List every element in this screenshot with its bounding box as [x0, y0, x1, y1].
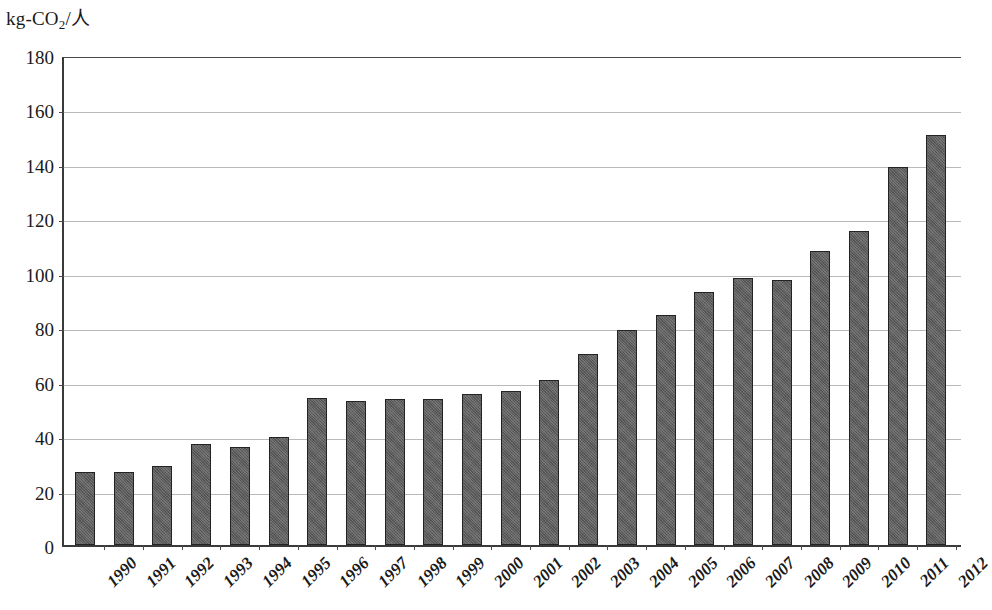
x-axis-tick-label: 1992 — [181, 554, 217, 590]
x-axis-tick-label: 2001 — [530, 554, 566, 590]
bar — [152, 466, 172, 545]
x-axis-tick-label: 2004 — [646, 554, 682, 590]
bar — [849, 231, 869, 545]
x-axis-tick-label: 1991 — [143, 554, 179, 590]
y-axis-tick-label: 180 — [4, 48, 54, 67]
x-axis-tick-mark — [453, 545, 454, 550]
x-axis-tick-mark — [607, 545, 608, 550]
bar — [888, 167, 908, 545]
bar — [772, 280, 792, 545]
bar — [423, 399, 443, 545]
bar — [307, 398, 327, 545]
bar — [75, 472, 95, 546]
y-axis-tick-label: 80 — [4, 320, 54, 339]
x-axis-tick-mark — [259, 545, 260, 550]
x-axis-tick-mark — [182, 545, 183, 550]
bar — [539, 380, 559, 545]
bar — [191, 444, 211, 545]
x-axis-tick-mark — [375, 545, 376, 550]
y-axis-tick-label: 100 — [4, 266, 54, 285]
x-axis-tick-label: 2011 — [916, 554, 951, 589]
bar — [694, 292, 714, 545]
x-axis-tick-label: 2006 — [723, 554, 759, 590]
bar — [462, 394, 482, 545]
y-axis-tick-mark — [59, 276, 64, 277]
plot-area — [62, 57, 961, 547]
x-axis-tick-label: 2000 — [491, 554, 527, 590]
x-axis-tick-mark — [143, 545, 144, 550]
y-axis-tick-label: 140 — [4, 157, 54, 176]
x-axis-tick-label: 2002 — [568, 554, 604, 590]
x-axis-tick-label: 1990 — [104, 554, 140, 590]
y-axis-tick-label: 40 — [4, 429, 54, 448]
x-axis-tick-label: 1998 — [414, 554, 450, 590]
x-axis-tick-mark — [414, 545, 415, 550]
x-axis-tick-mark — [801, 545, 802, 550]
x-axis-tick-mark — [878, 545, 879, 550]
gridline — [64, 112, 961, 113]
y-axis-tick-mark — [59, 221, 64, 222]
x-axis-tick-mark — [956, 545, 957, 550]
x-axis-tick-mark — [646, 545, 647, 550]
x-axis-tick-label: 1999 — [452, 554, 488, 590]
x-axis-tick-mark — [104, 545, 105, 550]
bar — [269, 437, 289, 545]
x-axis-tick-mark — [685, 545, 686, 550]
y-axis-unit-prefix: kg-CO — [6, 8, 59, 29]
bar — [617, 330, 637, 545]
bar — [656, 315, 676, 545]
bar — [810, 251, 830, 545]
x-axis-tick-label: 1994 — [259, 554, 295, 590]
x-axis-tick-mark — [491, 545, 492, 550]
y-axis-tick-label: 160 — [4, 102, 54, 121]
x-axis-tick-mark — [917, 545, 918, 550]
bar — [578, 354, 598, 545]
x-axis-tick-label: 2008 — [801, 554, 837, 590]
bar — [230, 447, 250, 545]
x-axis-tick-mark — [569, 545, 570, 550]
x-axis-tick-mark — [220, 545, 221, 550]
x-axis-tick-label: 1993 — [220, 554, 256, 590]
y-axis-tick-mark — [59, 330, 64, 331]
x-axis-tick-mark — [762, 545, 763, 550]
x-axis-tick-mark — [298, 545, 299, 550]
y-axis-tick-mark — [59, 385, 64, 386]
bar — [114, 472, 134, 546]
bar — [385, 399, 405, 545]
x-axis-tick-label: 1997 — [375, 554, 411, 590]
y-axis-tick-mark — [59, 112, 64, 113]
x-axis-tick-mark — [724, 545, 725, 550]
y-axis-unit-suffix: /人 — [65, 8, 90, 29]
x-axis-tick-label: 2007 — [762, 554, 798, 590]
y-axis-tick-label: 0 — [4, 538, 54, 557]
y-axis-tick-mark — [59, 167, 64, 168]
gridline — [64, 221, 961, 222]
x-axis-tick-mark — [840, 545, 841, 550]
y-axis-tick-mark — [59, 494, 64, 495]
x-axis-tick-mark — [530, 545, 531, 550]
x-axis-tick-mark — [337, 545, 338, 550]
gridline — [64, 167, 961, 168]
x-axis-tick-label: 2009 — [839, 554, 875, 590]
y-axis-tick-label: 60 — [4, 375, 54, 394]
y-axis-unit-label: kg-CO2/人 — [6, 8, 90, 36]
x-axis-tick-label: 1995 — [297, 554, 333, 590]
y-axis-tick-label: 120 — [4, 211, 54, 230]
x-axis-tick-label: 2010 — [878, 554, 914, 590]
bar — [501, 391, 521, 545]
y-axis-tick-label: 20 — [4, 484, 54, 503]
bar — [926, 135, 946, 545]
y-axis-tick-mark — [59, 439, 64, 440]
x-axis-tick-label: 1996 — [336, 554, 372, 590]
bar — [346, 401, 366, 545]
x-axis-tick-label: 2003 — [607, 554, 643, 590]
bar — [733, 278, 753, 545]
x-axis-tick-label: 2012 — [955, 554, 991, 590]
x-axis-tick-label: 2005 — [684, 554, 720, 590]
